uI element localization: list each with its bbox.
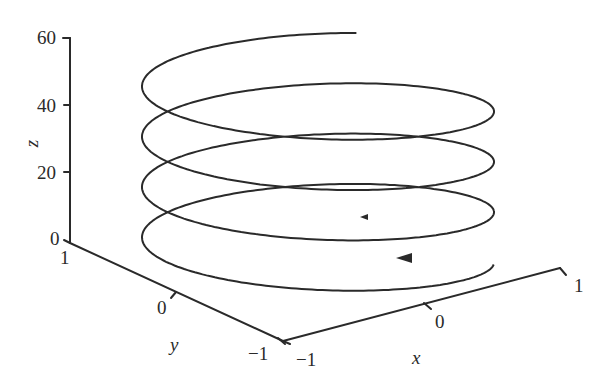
z-tick-label-40: 40 xyxy=(37,96,56,115)
z-tick-label-60: 60 xyxy=(37,28,56,47)
helix-curve xyxy=(142,33,494,291)
z-tick-label-0: 0 xyxy=(50,229,60,248)
z-axis-label: z xyxy=(22,140,41,147)
y-tick-label-0: 0 xyxy=(157,298,167,317)
z-tick-label-20: 20 xyxy=(37,163,56,182)
y-axis-label: y xyxy=(170,335,178,354)
helix-3d-plot xyxy=(0,0,612,382)
x-tick-1 xyxy=(560,268,566,275)
x-tick-label-0: 0 xyxy=(435,312,445,331)
y-tick-label-neg1: −1 xyxy=(248,344,268,363)
y-tick-label-1: 1 xyxy=(60,248,70,267)
y-tick-0 xyxy=(171,292,176,298)
x-axis xyxy=(283,268,560,341)
direction-arrow-lower xyxy=(396,253,412,263)
direction-arrow-upper xyxy=(360,214,368,220)
x-tick-label-neg1: −1 xyxy=(296,350,316,369)
x-axis-label: x xyxy=(412,348,420,367)
x-tick-label-1: 1 xyxy=(574,276,584,295)
